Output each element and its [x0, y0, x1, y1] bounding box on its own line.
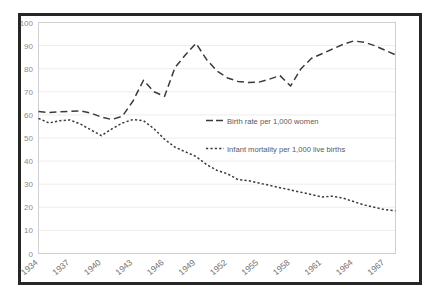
- y-tick-label: 100: [20, 19, 34, 28]
- x-axis-tick-labels: 1934193719401943194619491952195519581961…: [19, 257, 387, 277]
- y-tick-label: 10: [24, 226, 33, 235]
- y-tick-label: 90: [24, 42, 33, 51]
- data-series-group: [39, 41, 396, 211]
- x-tick-label: 1964: [334, 257, 355, 277]
- x-tick-label: 1934: [19, 257, 40, 277]
- series-line-0: [39, 41, 396, 120]
- series-line-1: [39, 118, 396, 210]
- x-tick-label: 1952: [208, 257, 229, 277]
- y-tick-label: 80: [24, 65, 33, 74]
- x-tick-label: 1967: [365, 257, 386, 277]
- y-tick-label: 50: [24, 134, 33, 143]
- y-tick-label: 30: [24, 180, 33, 189]
- x-tick-label: 1937: [50, 257, 71, 277]
- x-tick-label: 1955: [239, 257, 260, 277]
- line-chart: 0102030405060708090100 19341937194019431…: [0, 0, 442, 308]
- x-tick-label: 1940: [82, 257, 103, 277]
- y-tick-label: 20: [24, 203, 33, 212]
- legend-label-birth-rate: Birth rate per 1,000 women: [227, 117, 319, 126]
- gridline-group: [39, 23, 396, 231]
- legend-label-infant-mortality: Infant mortality per 1,000 live births: [227, 145, 345, 154]
- x-tick-label: 1958: [271, 257, 292, 277]
- y-axis-tick-labels: 0102030405060708090100: [20, 19, 34, 259]
- x-tick-label: 1949: [176, 257, 197, 277]
- y-tick-label: 70: [24, 88, 33, 97]
- x-tick-label: 1943: [113, 257, 134, 277]
- y-tick-label: 60: [24, 111, 33, 120]
- x-tick-label: 1961: [302, 257, 323, 277]
- chart-legend: Birth rate per 1,000 women Infant mortal…: [206, 117, 345, 154]
- y-tick-label: 40: [24, 157, 33, 166]
- x-tick-label: 1946: [145, 257, 166, 277]
